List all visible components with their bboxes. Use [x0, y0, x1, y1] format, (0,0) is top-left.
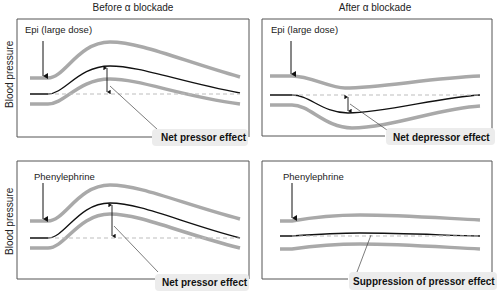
drug-label: Phenylephrine — [34, 171, 95, 182]
diagram-canvas: Epi (large dose) Net pressor effect Epi … — [0, 0, 499, 293]
panel-before-epi: Epi (large dose) Net pressor effect — [17, 19, 249, 146]
drug-label: Phenylephrine — [283, 171, 344, 182]
effect-label: Net pressor effect — [161, 132, 247, 143]
effect-label: Net pressor effect — [162, 277, 248, 288]
panel-before-phenylephrine: Phenylephrine Net pressor effect — [17, 161, 249, 291]
effect-label: Suppression of pressor effect — [353, 276, 495, 287]
drug-label: Epi (large dose) — [25, 24, 92, 35]
panel-after-epi: Epi (large dose) Net depressor effect — [262, 19, 495, 145]
panel-after-phenylephrine: Phenylephrine Suppression of pressor eff… — [262, 161, 497, 290]
drug-label: Epi (large dose) — [271, 24, 338, 35]
effect-label: Net depressor effect — [393, 132, 490, 143]
